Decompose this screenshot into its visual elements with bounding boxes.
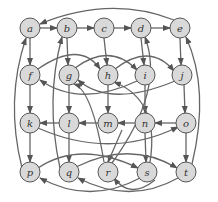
edge-b-g bbox=[67, 38, 68, 65]
node-a: a bbox=[20, 18, 40, 38]
svg-text:a: a bbox=[27, 23, 33, 34]
graph-diagram: a b c d e f g h i j k l m n o p q r s t bbox=[0, 0, 218, 202]
node-i: i bbox=[135, 65, 155, 85]
edge-p-a bbox=[14, 38, 26, 168]
svg-text:b: b bbox=[64, 23, 70, 34]
svg-text:n: n bbox=[142, 118, 148, 129]
svg-text:s: s bbox=[144, 167, 149, 178]
edge-q-t bbox=[76, 154, 177, 168]
node-g: g bbox=[59, 65, 79, 85]
svg-text:d: d bbox=[138, 23, 144, 34]
node-s: s bbox=[137, 162, 157, 182]
node-p: p bbox=[20, 162, 40, 182]
edge-t-e bbox=[186, 37, 200, 164]
node-m: m bbox=[98, 113, 118, 133]
edge-n-s bbox=[145, 133, 146, 162]
node-c: c bbox=[94, 18, 114, 38]
node-q: q bbox=[59, 162, 79, 182]
node-t: t bbox=[176, 162, 196, 182]
edge-c-h bbox=[104, 38, 107, 65]
svg-text:l: l bbox=[67, 118, 70, 129]
edge-s-p bbox=[40, 178, 140, 192]
svg-text:q: q bbox=[66, 167, 72, 178]
node-f: f bbox=[20, 65, 40, 85]
node-e: e bbox=[170, 18, 190, 38]
node-d: d bbox=[131, 18, 151, 38]
node-j: j bbox=[172, 65, 192, 85]
edge-e-j bbox=[180, 38, 181, 65]
node-r: r bbox=[98, 162, 118, 182]
node-n: n bbox=[135, 113, 155, 133]
svg-text:g: g bbox=[66, 70, 72, 81]
svg-text:h: h bbox=[105, 70, 111, 81]
svg-text:e: e bbox=[177, 23, 183, 34]
svg-text:p: p bbox=[27, 167, 34, 178]
svg-text:o: o bbox=[183, 118, 189, 129]
node-b: b bbox=[57, 18, 77, 38]
edge-d-i bbox=[141, 38, 144, 65]
svg-text:i: i bbox=[143, 70, 146, 81]
svg-text:m: m bbox=[103, 118, 112, 129]
svg-text:k: k bbox=[27, 118, 33, 129]
node-h: h bbox=[98, 65, 118, 85]
svg-text:c: c bbox=[101, 23, 107, 34]
node-l: l bbox=[59, 113, 79, 133]
node-o: o bbox=[176, 113, 196, 133]
node-k: k bbox=[20, 113, 40, 133]
edge-j-o bbox=[184, 85, 185, 113]
edge-j-g bbox=[78, 80, 175, 94]
